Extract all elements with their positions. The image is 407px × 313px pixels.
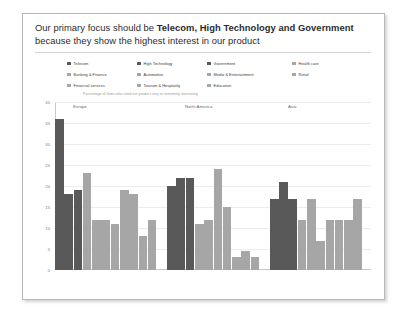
legend-swatch-icon [67, 62, 71, 66]
group-gap [157, 102, 167, 270]
group-gap [260, 102, 270, 270]
legend-item-label: Automotive [144, 72, 164, 77]
bar[interactable] [148, 220, 157, 270]
bar[interactable] [353, 199, 362, 270]
bar[interactable] [344, 220, 353, 270]
bar[interactable] [186, 178, 195, 270]
bar[interactable] [195, 224, 204, 270]
bar[interactable] [270, 199, 279, 270]
legend-item-label: Health care [299, 61, 319, 66]
bar[interactable] [92, 220, 101, 270]
legend-item-label: Telecom [74, 61, 89, 66]
legend-item-label: Retail [299, 72, 309, 77]
bar[interactable] [223, 207, 232, 270]
chart-subtitle: Percentage of firms who rated our produc… [83, 92, 198, 96]
y-axis-tick-label: 10 [45, 226, 50, 231]
legend-item[interactable]: Government [207, 58, 292, 69]
bar-group-label: Europe [73, 104, 87, 109]
bar[interactable] [101, 220, 110, 270]
y-axis-tick-label: 25 [45, 163, 50, 168]
bar-group: North America [167, 102, 260, 270]
legend-swatch-icon [207, 84, 211, 88]
bar[interactable] [74, 190, 83, 270]
bar[interactable] [64, 194, 73, 270]
bar[interactable] [120, 190, 129, 270]
legend-swatch-icon [207, 62, 211, 66]
bar[interactable] [176, 178, 185, 270]
chart-legend: TelecomHigh TechnologyGovernmentHealth c… [67, 58, 367, 91]
legend-item[interactable]: Automotive [137, 69, 207, 80]
bar[interactable] [316, 241, 325, 270]
bar-group: Europe [55, 102, 157, 270]
bar[interactable] [288, 199, 297, 270]
legend-item-label: High Technology [144, 61, 173, 66]
legend-swatch-icon [137, 73, 141, 77]
y-axis-tick-label: 30 [45, 142, 50, 147]
title-emphasis: Telecom, High Technology and Government [157, 22, 354, 33]
legend-swatch-icon [137, 62, 141, 66]
legend-swatch-icon [67, 84, 71, 88]
legend-item[interactable]: Health care [292, 58, 352, 69]
bar[interactable] [83, 173, 92, 270]
bar[interactable] [111, 224, 120, 270]
legend-item[interactable]: Retail [292, 69, 352, 80]
bar[interactable] [335, 220, 344, 270]
y-axis-tick-label: 5 [48, 247, 50, 252]
bar[interactable] [167, 186, 176, 270]
y-axis-tick-label: 20 [45, 184, 50, 189]
bar-group-label: North America [185, 104, 212, 109]
bar[interactable] [251, 257, 260, 270]
bar[interactable] [214, 169, 223, 270]
legend-swatch-icon [137, 84, 141, 88]
bar[interactable] [326, 220, 335, 270]
legend-item-label: Financial services [74, 83, 105, 88]
y-axis-tick-label: 15 [45, 205, 50, 210]
bar[interactable] [129, 194, 138, 270]
y-axis-tick-label: 40 [45, 100, 50, 105]
legend-item[interactable]: High Technology [137, 58, 207, 69]
legend-item-label: Tourism & Hospitality [144, 83, 181, 88]
bar-group: Asia [270, 102, 363, 270]
legend-swatch-icon [292, 73, 296, 77]
legend-item[interactable]: Tourism & Hospitality [137, 80, 207, 91]
legend-item[interactable]: Education [207, 80, 292, 91]
bar[interactable] [55, 119, 64, 270]
legend-item-label: Education [214, 83, 232, 88]
bar[interactable] [279, 182, 288, 270]
title-divider [35, 52, 371, 53]
bar[interactable] [307, 199, 316, 270]
legend-item-label: Media & Entertainment [214, 72, 254, 77]
bar[interactable] [204, 220, 213, 270]
title-prefix: Our primary focus should be [35, 22, 157, 33]
legend-item[interactable]: Media & Entertainment [207, 69, 292, 80]
bar[interactable] [241, 251, 250, 270]
slide-frame: Our primary focus should be Telecom, Hig… [22, 13, 385, 300]
legend-swatch-icon [292, 62, 296, 66]
y-axis: 4035302520151050 [35, 102, 53, 270]
bar[interactable] [298, 220, 307, 270]
bar-group-label: Asia [288, 104, 296, 109]
slide-title: Our primary focus should be Telecom, Hig… [35, 22, 373, 47]
y-axis-tick-label: 35 [45, 121, 50, 126]
legend-item[interactable]: Financial services [67, 80, 137, 91]
title-line-2: because they show the highest interest i… [35, 35, 373, 48]
bar-series: EuropeNorth AmericaAsia [55, 102, 371, 270]
legend-item[interactable]: Banking & Finance [67, 69, 137, 80]
title-line-1: Our primary focus should be Telecom, Hig… [35, 22, 373, 35]
legend-swatch-icon [207, 73, 211, 77]
chart-container: Percentage of firms who rated our produc… [35, 92, 373, 288]
legend-item[interactable]: Telecom [67, 58, 137, 69]
bar[interactable] [139, 236, 148, 270]
legend-item-label: Government [214, 61, 236, 66]
legend-swatch-icon [67, 73, 71, 77]
legend-item-label: Banking & Finance [74, 72, 107, 77]
bar[interactable] [232, 257, 241, 270]
plot-area: EuropeNorth AmericaAsia [55, 102, 371, 270]
y-axis-tick-label: 0 [48, 268, 50, 273]
